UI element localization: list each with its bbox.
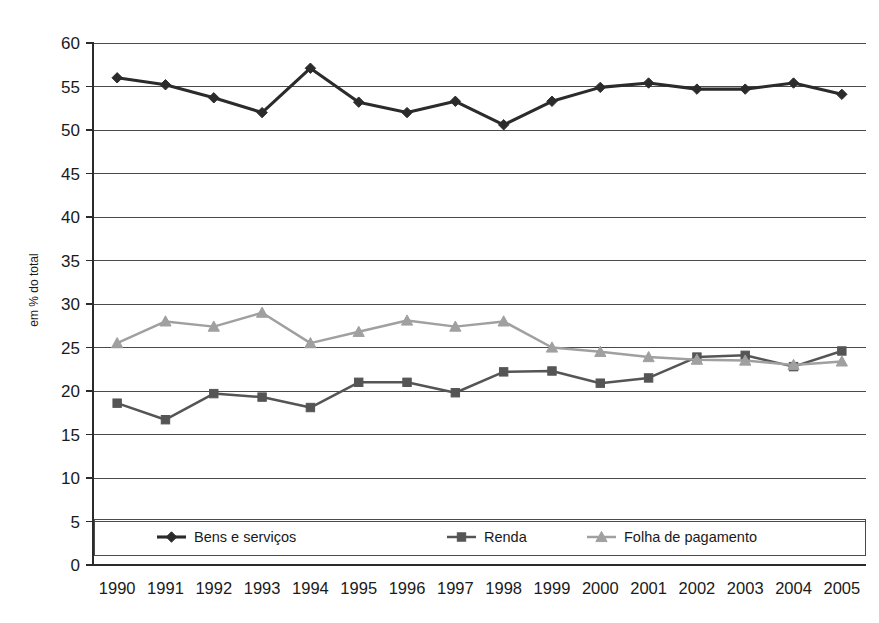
data-point-square [258,393,266,401]
data-point-square [113,399,121,407]
data-point-square [548,367,556,375]
y-axis-tick-label: 50 [61,121,80,140]
series-1 [112,63,847,130]
data-point-square [451,389,459,397]
x-axis-tick-label: 2001 [630,579,667,597]
data-point-diamond [450,96,460,106]
data-point-square [499,368,507,376]
gridlines [93,43,866,565]
x-axis-tick-label: 1998 [485,579,522,597]
y-axis-tick-label: 40 [61,208,80,227]
x-axis-tick-label: 2005 [823,579,860,597]
y-axis-tick-labels: 051015202530354045505560 [61,34,80,575]
data-point-diamond [498,120,508,130]
legend-label: Folha de pagamento [624,529,757,545]
series-3 [112,307,848,369]
data-point-square [838,347,846,355]
legend-label: Renda [484,529,528,545]
y-axis-tick-label: 30 [61,295,80,314]
data-point-square [355,378,363,386]
data-point-diamond [112,73,122,83]
data-point-square [210,389,218,397]
y-axis-tick-label: 15 [61,426,80,445]
data-point-diamond [160,80,170,90]
y-axis-tickmarks [86,43,93,565]
data-point-square [403,378,411,386]
series-line [117,313,842,365]
x-axis-tick-label: 2000 [582,579,619,597]
x-axis-tick-labels: 1990199119921993199419951996199719981999… [99,579,860,597]
legend-item-1[interactable]: Bens e serviços [157,529,296,545]
x-axis-tick-label: 1999 [534,579,571,597]
y-axis-tick-label: 55 [61,78,80,97]
chart-container: 051015202530354045505560 199019911992199… [0,0,879,623]
data-point-diamond [692,84,702,94]
x-axis-tick-label: 1994 [292,579,329,597]
y-axis-tick-label: 45 [61,165,80,184]
data-point-diamond [402,107,412,117]
data-point-diamond [547,96,557,106]
data-series [112,63,848,424]
y-axis-tick-label: 10 [61,469,80,488]
y-axis-tick-label: 0 [71,556,80,575]
y-axis-tick-label: 20 [61,382,80,401]
x-axis-tick-label: 1993 [244,579,281,597]
x-axis-tick-label: 2003 [727,579,764,597]
data-point-diamond [166,532,176,542]
y-axis-title: em % do total [27,253,41,326]
x-axis-tick-label: 1995 [340,579,377,597]
data-point-square [644,374,652,382]
data-point-diamond [209,93,219,103]
chart-legend: Bens e serviçosRendaFolha de pagamento [94,519,865,555]
line-chart: 051015202530354045505560 199019911992199… [0,0,879,623]
data-point-diamond [837,89,847,99]
legend-item-3[interactable]: Folha de pagamento [587,529,757,545]
y-axis-tick-label: 60 [61,34,80,53]
y-axis-tick-label: 35 [61,252,80,271]
y-axis-tick-label: 5 [71,513,80,532]
data-point-diamond [595,82,605,92]
x-axis-tick-label: 1992 [195,579,232,597]
data-point-square [306,403,314,411]
data-point-square [596,379,604,387]
data-point-square [457,533,465,541]
legend-item-2[interactable]: Renda [447,529,528,545]
x-axis-tick-label: 2002 [679,579,716,597]
x-axis-tick-label: 1996 [389,579,426,597]
legend-label: Bens e serviços [194,529,296,545]
data-point-square [161,416,169,424]
data-point-diamond [740,84,750,94]
y-axis-tick-label: 25 [61,339,80,358]
x-axis-tick-label: 1990 [99,579,136,597]
series-2 [113,347,846,424]
x-axis-tick-label: 1991 [147,579,184,597]
x-axis-tick-label: 2004 [775,579,812,597]
series-line [117,68,842,125]
data-point-triangle [256,307,267,317]
x-axis-tick-label: 1997 [437,579,474,597]
